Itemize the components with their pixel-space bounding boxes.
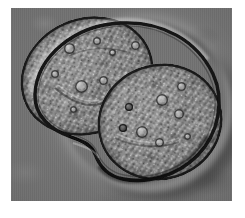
vacuole [99,76,108,85]
vacuole [177,82,186,91]
vacuole [93,37,101,45]
vacuole [174,109,184,119]
vacuole [75,80,88,93]
vacuole [136,126,148,138]
vacuole [125,103,133,111]
vacuole [155,138,164,147]
vacuole [119,124,127,132]
vacuole [64,43,75,54]
micrograph-page [0,0,245,218]
vacuole [109,49,116,56]
vacuole [51,70,59,78]
vacuole [184,133,191,140]
vacuole [70,106,77,113]
vacuole [131,41,140,50]
micrograph-image [11,8,232,201]
vacuole [156,94,168,106]
